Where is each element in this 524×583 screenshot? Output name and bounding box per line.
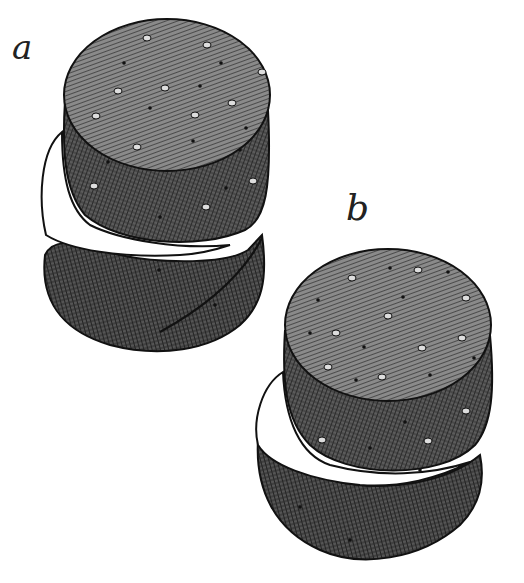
disc-b-top-face — [285, 249, 491, 401]
panel-a-stack — [42, 19, 270, 351]
illustration — [0, 0, 524, 583]
panel-b-stack — [256, 249, 492, 559]
disc-a-top-face — [64, 19, 270, 171]
